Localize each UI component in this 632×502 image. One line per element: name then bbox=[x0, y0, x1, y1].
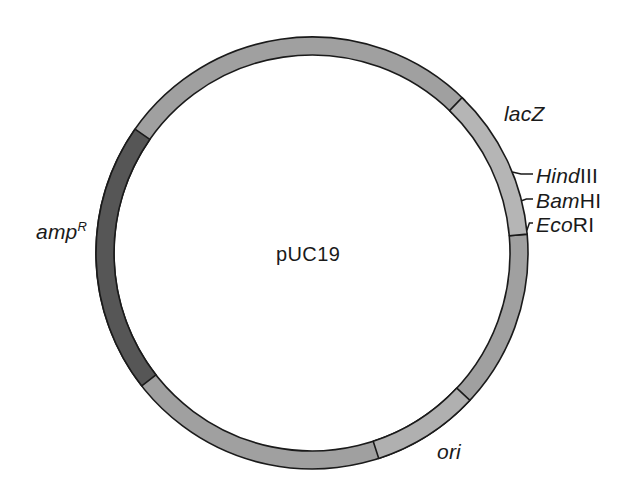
segment-label-lacz: lacZ bbox=[504, 103, 544, 124]
segment-label-ampr-base: amp bbox=[36, 220, 77, 243]
site-label-bamhi-suffix: HI bbox=[580, 189, 601, 212]
leader-line-bamhi bbox=[522, 199, 533, 201]
site-label-ecori: EcoRI bbox=[536, 214, 594, 235]
site-label-ecori-suffix: RI bbox=[573, 213, 594, 236]
plasmid-segment-ampr bbox=[96, 129, 156, 386]
site-label-ecori-prefix: Eco bbox=[536, 213, 573, 236]
site-label-hindiii-suffix: III bbox=[580, 164, 598, 187]
site-label-bamhi: BamHI bbox=[536, 190, 601, 211]
site-label-hindiii: HindIII bbox=[536, 165, 598, 186]
site-label-hindiii-prefix: Hind bbox=[536, 164, 580, 187]
segment-label-ampr: ampR bbox=[36, 220, 87, 242]
site-label-bamhi-prefix: Bam bbox=[536, 189, 580, 212]
segment-label-ori: ori bbox=[437, 441, 461, 462]
leader-line-ecori bbox=[527, 223, 533, 230]
leader-line-hindiii bbox=[512, 172, 533, 174]
plasmid-name-label: pUC19 bbox=[276, 244, 340, 264]
segment-label-ampr-superscript: R bbox=[77, 219, 86, 234]
